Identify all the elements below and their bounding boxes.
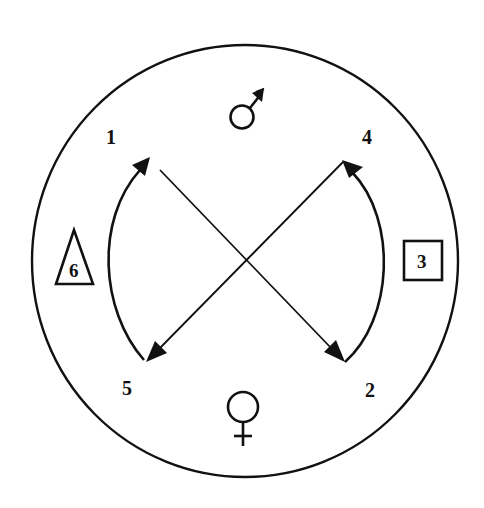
label-4: 4 xyxy=(362,126,372,148)
male-symbol-icon xyxy=(231,88,265,129)
arrowhead-1-icon xyxy=(132,157,150,176)
female-symbol-icon xyxy=(228,392,258,446)
box-3: 3 xyxy=(404,241,442,280)
arrow-1-to-2 xyxy=(160,170,345,362)
arrowhead-4-icon xyxy=(342,160,363,178)
triangle-label: 6 xyxy=(69,260,79,281)
label-1: 1 xyxy=(106,126,116,148)
box-label: 3 xyxy=(417,251,427,272)
curved-arrow-5-to-1 xyxy=(109,157,150,360)
label-5: 5 xyxy=(122,377,132,399)
label-2: 2 xyxy=(365,379,375,401)
arrow-4-to-5 xyxy=(146,162,343,362)
curved-arrow-2-to-4 xyxy=(342,160,384,362)
triangle-6: 6 xyxy=(56,230,93,284)
cross-circle-diagram: 1 4 5 2 6 3 xyxy=(0,0,484,508)
